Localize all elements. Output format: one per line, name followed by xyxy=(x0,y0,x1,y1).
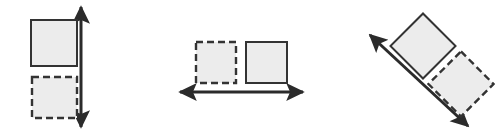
translation-diagram-canvas xyxy=(0,0,504,135)
dashed-square-left xyxy=(196,42,236,83)
dashed-square-bottom xyxy=(32,77,77,118)
solid-square-top xyxy=(31,20,77,66)
diagram-svg xyxy=(0,0,504,135)
panel-horizontal xyxy=(180,42,303,92)
solid-square-right xyxy=(246,42,287,83)
panel-vertical xyxy=(31,7,81,127)
panel-diagonal xyxy=(370,13,494,126)
